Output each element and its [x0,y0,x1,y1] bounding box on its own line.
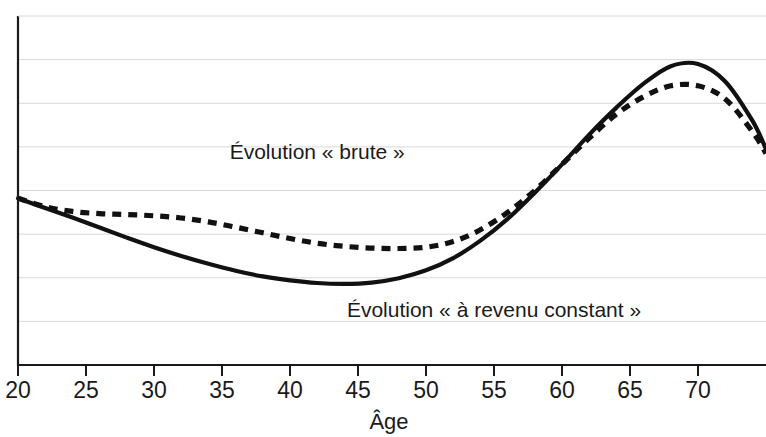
x-tick-label: 50 [413,377,439,403]
x-tick-label: 40 [277,377,303,403]
x-tick-label: 25 [73,377,99,403]
chart-background [0,0,766,437]
x-axis-title: Âge [369,409,408,434]
x-tick-label: 45 [345,377,371,403]
x-tick-label: 60 [549,377,575,403]
annotation-brute: Évolution « brute » [230,140,405,163]
x-tick-label: 35 [209,377,235,403]
x-tick-label: 20 [5,377,31,403]
annotation-revenu-constant: Évolution « à revenu constant » [347,298,641,321]
line-chart: 2025303540455055606570 Âge Évolution « b… [0,0,766,437]
x-tick-label: 55 [481,377,507,403]
x-tick-label: 65 [617,377,643,403]
x-tick-label: 30 [141,377,167,403]
chart-container: 2025303540455055606570 Âge Évolution « b… [0,0,766,437]
x-tick-label: 70 [685,377,711,403]
